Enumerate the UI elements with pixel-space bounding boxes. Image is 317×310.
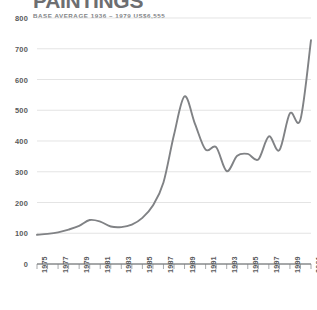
x-axis-tick-label: 2001 xyxy=(314,256,317,273)
x-axis-tick-label: 1983 xyxy=(124,256,133,273)
y-axis-tick-label: 500 xyxy=(4,106,28,115)
x-axis-tick-label: 1985 xyxy=(145,256,154,273)
x-axis-tick-label: 1987 xyxy=(166,256,175,273)
data-series-line xyxy=(37,40,311,235)
y-axis-tick-label: 200 xyxy=(4,199,28,208)
x-axis-tick-label: 1999 xyxy=(293,256,302,273)
x-axis-tick-label: 1977 xyxy=(61,256,70,273)
x-axis-tick-label: 1997 xyxy=(272,256,281,273)
x-axis-tick-label: 1975 xyxy=(40,256,49,273)
x-axis-tick-label: 1993 xyxy=(230,256,239,273)
x-axis-tick-label: 1981 xyxy=(103,256,112,273)
paintings-price-index-chart: PAINTINGS BASE AVERAGE 1936 – 1979 US$6,… xyxy=(0,0,317,310)
x-axis-tick-label: 1995 xyxy=(251,256,260,273)
x-axis-tick-label: 1979 xyxy=(82,256,91,273)
x-axis-tick-label: 1991 xyxy=(209,256,218,273)
y-axis-tick-label: 400 xyxy=(4,137,28,146)
y-axis-tick-label: 100 xyxy=(4,229,28,238)
y-axis-tick-label: 300 xyxy=(4,168,28,177)
y-axis-tick-label: 700 xyxy=(4,45,28,54)
y-axis-tick-label: 800 xyxy=(4,14,28,23)
x-axis-tick-label: 1989 xyxy=(188,256,197,273)
y-axis-tick-label: 0 xyxy=(4,260,28,269)
y-axis-tick-label: 600 xyxy=(4,76,28,85)
